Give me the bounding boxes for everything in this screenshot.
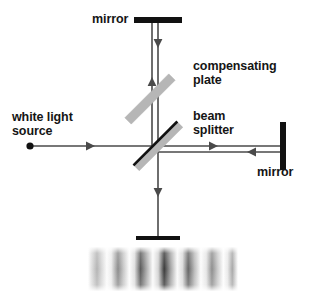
arrow-left-from-mirror — [247, 148, 256, 157]
label-mirror-top: mirror — [92, 13, 128, 27]
interferometer-diagram: mirror compensating plate beam splitter … — [0, 0, 312, 308]
label-mirror-right: mirror — [257, 166, 293, 180]
arrow-right-source — [86, 142, 95, 151]
diagram-canvas — [0, 0, 312, 308]
arrow-down-to-screen — [154, 188, 163, 197]
label-beam-splitter: beam splitter — [193, 110, 234, 137]
arrow-right-to-mirror — [209, 142, 218, 151]
label-compensating-plate: compensating plate — [193, 60, 277, 87]
beam-splitter-coating — [133, 121, 177, 165]
mirror-top — [134, 17, 182, 23]
arrow-up-to-top-mirror — [148, 77, 157, 86]
label-white-light-source: white light source — [12, 111, 73, 138]
arrow-down-from-top-mirror — [154, 39, 163, 48]
detector-screen — [136, 236, 180, 240]
interference-fringes — [88, 247, 238, 291]
white-light-source-point — [26, 142, 33, 149]
mirror-right — [280, 122, 286, 170]
